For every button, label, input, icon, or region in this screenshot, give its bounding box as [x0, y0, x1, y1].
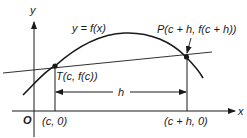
tick-c-label: (c, 0): [42, 115, 67, 127]
interval-h-label: h: [118, 86, 124, 98]
y-axis-label: y: [29, 4, 37, 16]
point-P: [184, 54, 189, 59]
origin-label: O: [23, 114, 32, 126]
point-P-label: P(c + h, f(c + h)): [157, 23, 237, 35]
point-T-label: T(c, f(c)): [56, 70, 98, 82]
point-T: [52, 63, 57, 68]
x-axis-label: x: [237, 105, 244, 117]
secant-diagram: y x O y = f(x) T(c, f(c)) P(c + h, f(c +…: [0, 0, 247, 138]
p-pointer-arrow: [187, 38, 191, 53]
curve-label: y = f(x): [71, 22, 106, 34]
tick-c-plus-h-label: (c + h, 0): [164, 115, 208, 127]
curve-f: [23, 33, 203, 95]
